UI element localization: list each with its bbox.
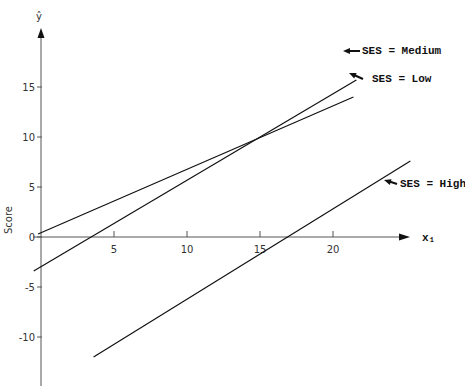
- y-tick-label: -5: [25, 282, 35, 293]
- series-line-high: [94, 161, 411, 357]
- y-tick-label: 10: [22, 132, 35, 143]
- ticks: 5101520-10-5051015: [19, 82, 340, 343]
- y-tick-label: 5: [29, 182, 35, 193]
- x-axis-arrow-icon: [399, 234, 410, 241]
- series-label-high: SES = High: [400, 178, 465, 190]
- y-tick-label: 15: [22, 82, 35, 93]
- y-axis-title: ŷ: [36, 11, 42, 22]
- y-tick-label: 0: [29, 232, 35, 243]
- x-tick-label: 10: [181, 244, 194, 255]
- x-tick-label: 5: [111, 244, 117, 255]
- series-label-low: SES = Low: [372, 73, 432, 85]
- series-line-medium: [34, 80, 357, 271]
- series-lines: [34, 80, 411, 357]
- series-annotations: SES = MediumSES = LowSES = High: [343, 45, 465, 190]
- x-axis-label: x₁: [422, 232, 435, 244]
- line-chart: ŷx₁Score 5101520-10-5051015 SES = Medium…: [0, 0, 465, 386]
- series-line-low: [38, 97, 353, 234]
- arrowhead-icon: [343, 48, 350, 54]
- axes: ŷx₁Score: [3, 11, 435, 386]
- x-tick-label: 20: [327, 244, 340, 255]
- arrowhead-icon: [384, 179, 392, 185]
- y-axis-label: Score: [3, 206, 14, 234]
- y-tick-label: -10: [19, 332, 35, 343]
- series-label-medium: SES = Medium: [362, 45, 442, 57]
- y-axis-arrow-icon: [38, 28, 45, 38]
